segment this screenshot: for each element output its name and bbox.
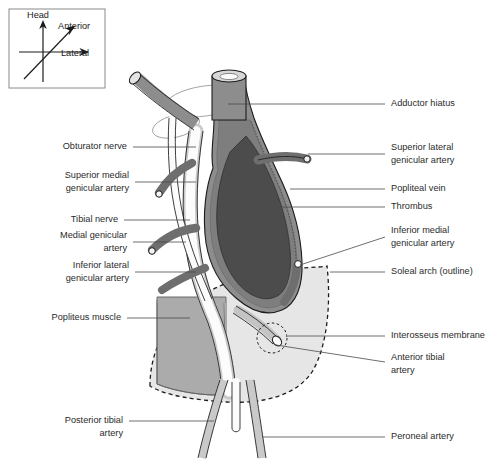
label-posterior-tibial-artery-line2: artery [100, 428, 124, 438]
orientation-inset: Head Anterior Lateral [9, 9, 105, 88]
smga-cut-end [156, 191, 162, 197]
orientation-inset-box [9, 9, 105, 88]
anatomical-figure: Head Anterior Lateral [0, 0, 494, 468]
label-tibial-nerve: Tibial nerve [71, 214, 118, 224]
label-anterior-tibial-artery-line1: Anterior tibial [391, 352, 445, 362]
label-posterior-tibial-artery-line1: Posterior tibial [65, 415, 123, 425]
label-superior-lateral-genicular-artery-line2: genicular artery [391, 155, 455, 165]
label-popliteal-vein: Popliteal vein [391, 183, 446, 193]
label-adductor-hiatus: Adductor hiatus [391, 98, 455, 108]
label-thrombus: Thrombus [391, 201, 433, 211]
label-soleal-arch-outline: Soleal arch (outline) [391, 266, 473, 276]
label-interosseus-membrane: Interosseus membrane [391, 330, 485, 340]
vein-stump-lumen [220, 73, 238, 79]
popliteus-muscle-joint [157, 297, 226, 303]
vein-stump-body [212, 76, 246, 120]
label-superior-medial-genicular-artery-line2: genicular artery [66, 183, 130, 193]
label-medial-genicular-artery-line1: Medial genicular [60, 230, 127, 240]
popliteal-vein-proximal-stump [212, 70, 246, 120]
label-obturator-nerve: Obturator nerve [63, 141, 127, 151]
label-inferior-medial-genicular-artery-line1: Inferior medial [391, 225, 449, 235]
label-anterior-tibial-artery-line2: artery [391, 365, 415, 375]
mga-cut-end [149, 248, 156, 255]
label-inferior-lateral-genicular-artery-line2: genicular artery [66, 273, 130, 283]
label-peroneal-artery: Peroneal artery [391, 431, 454, 441]
head-axis-label: Head [27, 10, 49, 20]
imga-origin-marker [295, 261, 302, 268]
label-superior-lateral-genicular-artery-line1: Superior lateral [391, 142, 453, 152]
anterior-axis-label: Anterior [58, 21, 90, 31]
label-inferior-lateral-genicular-artery-line1: Inferior lateral [73, 260, 129, 270]
label-medial-genicular-artery-line2: artery [104, 243, 128, 253]
label-popliteus-muscle: Popliteus muscle [52, 312, 121, 322]
slga-cut-end [304, 156, 310, 162]
lateral-axis-label: Lateral [61, 48, 89, 58]
label-inferior-medial-genicular-artery-line2: genicular artery [391, 238, 455, 248]
anatomy-illustration: Head Anterior Lateral [0, 0, 494, 468]
label-superior-medial-genicular-artery-line1: Superior medial [65, 170, 129, 180]
